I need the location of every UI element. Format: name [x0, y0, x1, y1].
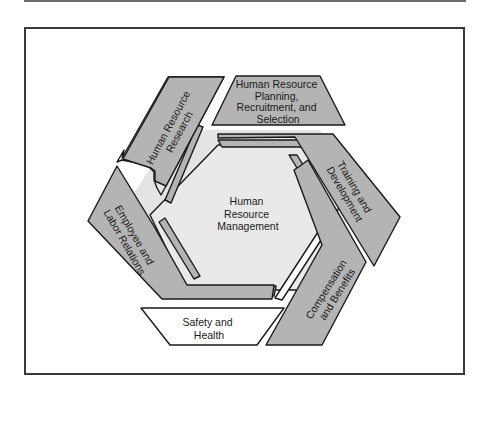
- hrm-hexagon-diagram: Human Resource Management Human Resource…: [0, 0, 490, 424]
- inner-strip-top: [218, 140, 305, 147]
